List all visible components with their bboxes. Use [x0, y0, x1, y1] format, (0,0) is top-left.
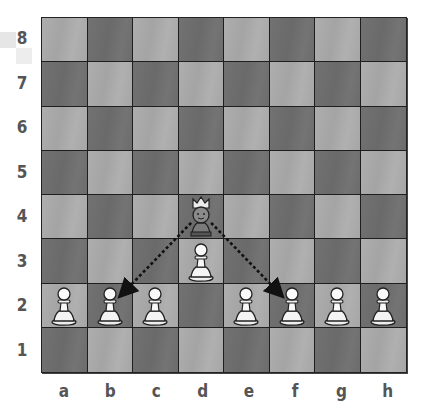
square-c3[interactable] — [133, 239, 179, 283]
square-f5[interactable] — [270, 151, 316, 195]
white-pawn-icon[interactable] — [320, 284, 354, 326]
file-label-d: d — [193, 381, 213, 401]
square-b7[interactable] — [88, 62, 134, 106]
file-label-g: g — [331, 381, 351, 401]
rank-label-7: 7 — [12, 73, 32, 93]
square-f4[interactable] — [270, 195, 316, 239]
rank-label-5: 5 — [12, 162, 32, 182]
square-d7[interactable] — [179, 62, 225, 106]
square-e3[interactable] — [224, 239, 270, 283]
square-d1[interactable] — [179, 328, 225, 372]
square-f1[interactable] — [270, 328, 316, 372]
square-f7[interactable] — [270, 62, 316, 106]
file-label-h: h — [378, 381, 398, 401]
rank-label-3: 3 — [12, 251, 32, 271]
square-d6[interactable] — [179, 107, 225, 151]
square-d2[interactable] — [179, 284, 225, 328]
file-label-a: a — [54, 381, 74, 401]
square-e1[interactable] — [224, 328, 270, 372]
square-g6[interactable] — [315, 107, 361, 151]
square-b8[interactable] — [88, 18, 134, 62]
square-b6[interactable] — [88, 107, 134, 151]
square-c7[interactable] — [133, 62, 179, 106]
square-a3[interactable] — [42, 239, 88, 283]
square-d5[interactable] — [179, 151, 225, 195]
square-e6[interactable] — [224, 107, 270, 151]
chess-board — [41, 17, 407, 373]
square-c2[interactable] — [133, 284, 179, 328]
white-pawn-icon[interactable] — [275, 284, 309, 326]
rank-label-8: 8 — [12, 28, 32, 48]
square-e2[interactable] — [224, 284, 270, 328]
square-e5[interactable] — [224, 151, 270, 195]
square-g8[interactable] — [315, 18, 361, 62]
square-e8[interactable] — [224, 18, 270, 62]
square-h2[interactable] — [361, 284, 407, 328]
white-pawn-icon[interactable] — [184, 240, 218, 282]
square-g5[interactable] — [315, 151, 361, 195]
square-a1[interactable] — [42, 328, 88, 372]
white-pawn-icon[interactable] — [229, 284, 263, 326]
white-pawn-icon[interactable] — [366, 284, 400, 326]
square-g2[interactable] — [315, 284, 361, 328]
square-a2[interactable] — [42, 284, 88, 328]
square-h5[interactable] — [361, 151, 407, 195]
square-g3[interactable] — [315, 239, 361, 283]
square-a8[interactable] — [42, 18, 88, 62]
file-label-c: c — [146, 381, 166, 401]
square-h7[interactable] — [361, 62, 407, 106]
rank-label-2: 2 — [12, 295, 32, 315]
file-label-e: e — [239, 381, 259, 401]
white-pawn-icon[interactable] — [93, 284, 127, 326]
square-b5[interactable] — [88, 151, 134, 195]
square-c4[interactable] — [133, 195, 179, 239]
square-h4[interactable] — [361, 195, 407, 239]
file-label-b: b — [100, 381, 120, 401]
square-a5[interactable] — [42, 151, 88, 195]
square-f3[interactable] — [270, 239, 316, 283]
square-a6[interactable] — [42, 107, 88, 151]
square-d3[interactable] — [179, 239, 225, 283]
square-e4[interactable] — [224, 195, 270, 239]
file-label-f: f — [285, 381, 305, 401]
queen-character-icon[interactable] — [184, 196, 218, 238]
rank-label-6: 6 — [12, 117, 32, 137]
square-b2[interactable] — [88, 284, 134, 328]
square-c6[interactable] — [133, 107, 179, 151]
square-a4[interactable] — [42, 195, 88, 239]
square-c5[interactable] — [133, 151, 179, 195]
rank-label-4: 4 — [12, 206, 32, 226]
square-b4[interactable] — [88, 195, 134, 239]
white-pawn-icon[interactable] — [47, 284, 81, 326]
square-d8[interactable] — [179, 18, 225, 62]
square-h1[interactable] — [361, 328, 407, 372]
square-e7[interactable] — [224, 62, 270, 106]
square-a7[interactable] — [42, 62, 88, 106]
square-f2[interactable] — [270, 284, 316, 328]
square-f6[interactable] — [270, 107, 316, 151]
background-decoration — [16, 48, 32, 64]
square-h8[interactable] — [361, 18, 407, 62]
square-g4[interactable] — [315, 195, 361, 239]
rank-label-1: 1 — [12, 340, 32, 360]
square-f8[interactable] — [270, 18, 316, 62]
square-b1[interactable] — [88, 328, 134, 372]
white-pawn-icon[interactable] — [138, 284, 172, 326]
square-c1[interactable] — [133, 328, 179, 372]
square-h3[interactable] — [361, 239, 407, 283]
square-b3[interactable] — [88, 239, 134, 283]
square-d4[interactable] — [179, 195, 225, 239]
square-g7[interactable] — [315, 62, 361, 106]
square-h6[interactable] — [361, 107, 407, 151]
square-c8[interactable] — [133, 18, 179, 62]
square-g1[interactable] — [315, 328, 361, 372]
